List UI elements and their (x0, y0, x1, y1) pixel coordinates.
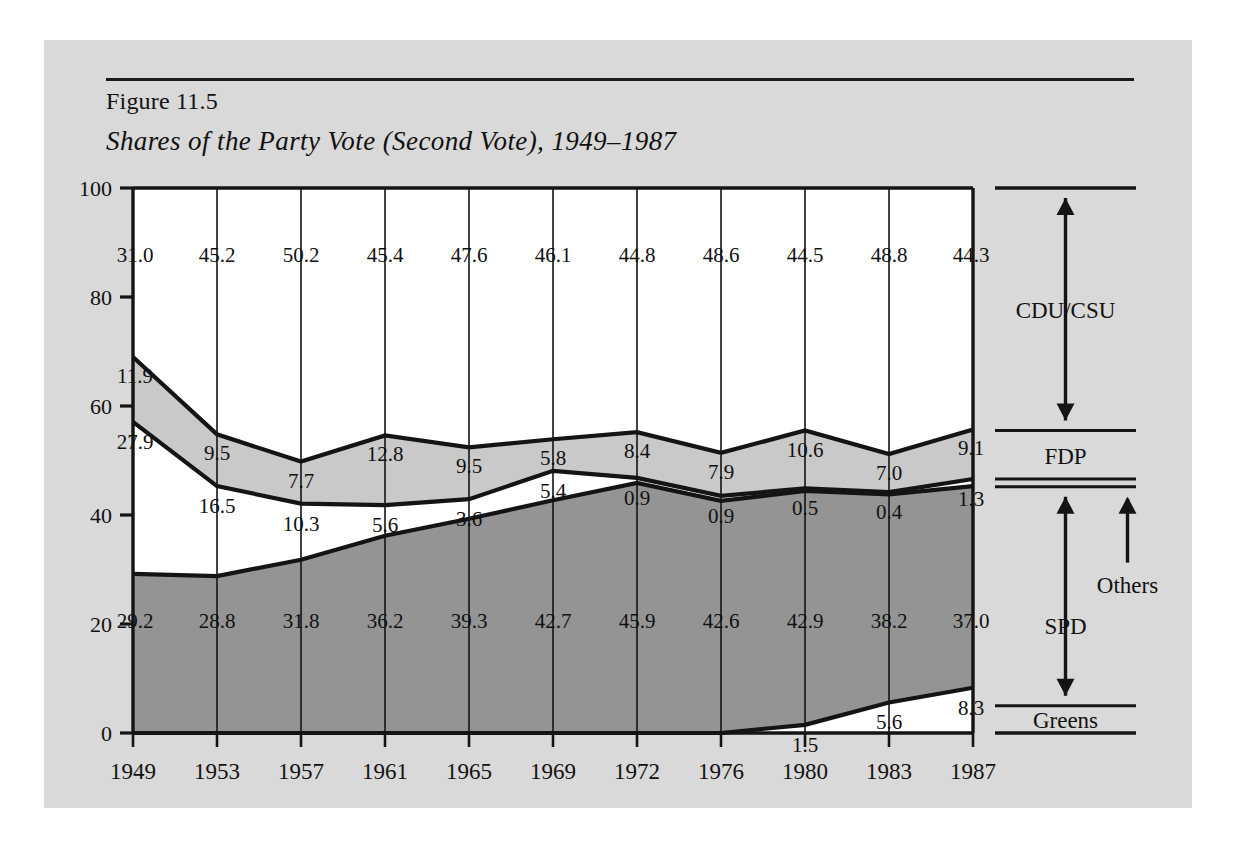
svg-text:1980: 1980 (782, 759, 828, 784)
svg-text:45.2: 45.2 (199, 243, 236, 267)
svg-text:10.3: 10.3 (283, 512, 320, 536)
svg-text:0.5: 0.5 (792, 496, 818, 520)
figure-page: Figure 11.5 Shares of the Party Vote (Se… (44, 40, 1192, 808)
chart-legend: CDU/CSUFDPSPDOthersGreens (995, 188, 1158, 733)
svg-text:9.5: 9.5 (456, 454, 482, 478)
svg-text:48.8: 48.8 (871, 243, 908, 267)
svg-text:42.9: 42.9 (787, 609, 824, 633)
svg-text:5.6: 5.6 (876, 710, 902, 734)
svg-text:1957: 1957 (278, 759, 324, 784)
svg-text:8.4: 8.4 (624, 439, 651, 463)
svg-text:42.7: 42.7 (535, 609, 572, 633)
svg-text:SPD: SPD (1044, 614, 1086, 639)
svg-text:28.8: 28.8 (199, 609, 236, 633)
svg-text:0.9: 0.9 (708, 504, 734, 528)
svg-text:20: 20 (90, 612, 112, 637)
svg-text:31.0: 31.0 (117, 243, 154, 267)
svg-text:5.8: 5.8 (540, 446, 566, 470)
svg-text:39.3: 39.3 (451, 609, 488, 633)
svg-text:1969: 1969 (530, 759, 576, 784)
svg-text:10.6: 10.6 (787, 438, 824, 462)
svg-text:27.9: 27.9 (117, 430, 154, 454)
svg-text:11.9: 11.9 (117, 364, 153, 388)
svg-text:31.8: 31.8 (283, 609, 320, 633)
svg-text:1972: 1972 (614, 759, 660, 784)
svg-text:Greens: Greens (1033, 708, 1098, 733)
svg-text:9.1: 9.1 (958, 436, 984, 460)
svg-text:45.4: 45.4 (367, 243, 404, 267)
svg-text:12.8: 12.8 (367, 442, 404, 466)
svg-text:CDU/CSU: CDU/CSU (1016, 298, 1116, 323)
svg-text:7.9: 7.9 (708, 460, 734, 484)
svg-text:1965: 1965 (446, 759, 492, 784)
svg-text:3.6: 3.6 (456, 507, 482, 531)
svg-text:46.1: 46.1 (535, 243, 572, 267)
svg-text:8.3: 8.3 (958, 696, 984, 720)
svg-text:1953: 1953 (194, 759, 240, 784)
chart-area: 020406080100 194919531957196119651969197… (44, 40, 1192, 808)
svg-text:40: 40 (90, 503, 112, 528)
svg-text:5.6: 5.6 (372, 513, 398, 537)
svg-text:0: 0 (101, 721, 112, 746)
svg-text:1949: 1949 (110, 759, 156, 784)
svg-text:7.0: 7.0 (876, 461, 902, 485)
svg-text:45.9: 45.9 (619, 609, 656, 633)
svg-text:44.3: 44.3 (953, 243, 990, 267)
svg-text:1987: 1987 (950, 759, 996, 784)
svg-text:44.5: 44.5 (787, 243, 824, 267)
svg-text:1976: 1976 (698, 759, 744, 784)
svg-text:FDP: FDP (1044, 444, 1086, 469)
svg-text:1961: 1961 (362, 759, 408, 784)
svg-text:0.4: 0.4 (876, 500, 903, 524)
stacked-area-chart: 020406080100 194919531957196119651969197… (44, 40, 1192, 808)
svg-text:38.2: 38.2 (871, 609, 908, 633)
svg-text:48.6: 48.6 (703, 243, 740, 267)
svg-text:7.7: 7.7 (288, 469, 314, 493)
svg-text:9.5: 9.5 (204, 441, 230, 465)
svg-text:60: 60 (90, 394, 112, 419)
svg-text:29.2: 29.2 (117, 609, 154, 633)
svg-text:36.2: 36.2 (367, 609, 404, 633)
svg-text:47.6: 47.6 (451, 243, 488, 267)
svg-text:1983: 1983 (866, 759, 912, 784)
svg-text:50.2: 50.2 (283, 243, 320, 267)
svg-text:1.3: 1.3 (958, 487, 984, 511)
svg-text:16.5: 16.5 (199, 494, 236, 518)
svg-text:42.6: 42.6 (703, 609, 740, 633)
svg-text:Others: Others (1097, 573, 1158, 598)
svg-text:1.5: 1.5 (792, 733, 818, 757)
svg-text:44.8: 44.8 (619, 243, 656, 267)
svg-text:0.9: 0.9 (624, 486, 650, 510)
svg-text:80: 80 (90, 285, 112, 310)
x-axis-ticks: 1949195319571961196519691972197619801983… (110, 733, 996, 784)
svg-text:37.0: 37.0 (953, 609, 990, 633)
svg-text:5.4: 5.4 (540, 479, 567, 503)
svg-text:100: 100 (79, 176, 112, 201)
